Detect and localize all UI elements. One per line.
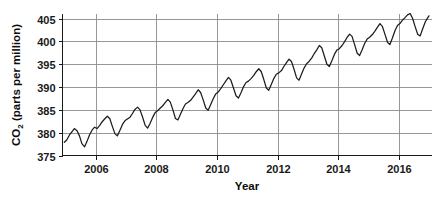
x-tick-label: 2008 [144, 163, 168, 175]
x-tick-label: 2014 [326, 163, 351, 175]
vertical-gridlines [97, 14, 400, 156]
chart-canvas: 375380385390395400405 200620082010201220… [0, 0, 444, 202]
co2-line-chart: 375380385390395400405 200620082010201220… [0, 0, 444, 202]
x-tick-label: 2006 [84, 163, 108, 175]
y-tick-label: 395 [37, 59, 55, 71]
data-line-co2 [64, 14, 429, 147]
data-series-group [64, 14, 429, 147]
x-axis-title: Year [235, 180, 260, 192]
x-axis-tick-marks [97, 156, 400, 160]
horizontal-gridlines [63, 20, 433, 134]
y-tick-label: 390 [37, 82, 55, 94]
x-tick-label: 2012 [266, 163, 290, 175]
x-axis-tick-labels: 200620082010201220142016 [84, 163, 411, 175]
y-axis-title: CO2 (parts per million) [10, 24, 25, 146]
y-tick-label: 380 [37, 128, 55, 140]
x-tick-label: 2010 [205, 163, 229, 175]
y-axis-tick-labels: 375380385390395400405 [37, 14, 55, 163]
y-tick-label: 385 [37, 105, 55, 117]
y-tick-label: 405 [37, 14, 55, 26]
x-tick-label: 2016 [387, 163, 411, 175]
y-axis-tick-marks [59, 20, 63, 157]
y-tick-label: 375 [37, 151, 55, 163]
y-tick-label: 400 [37, 36, 55, 48]
